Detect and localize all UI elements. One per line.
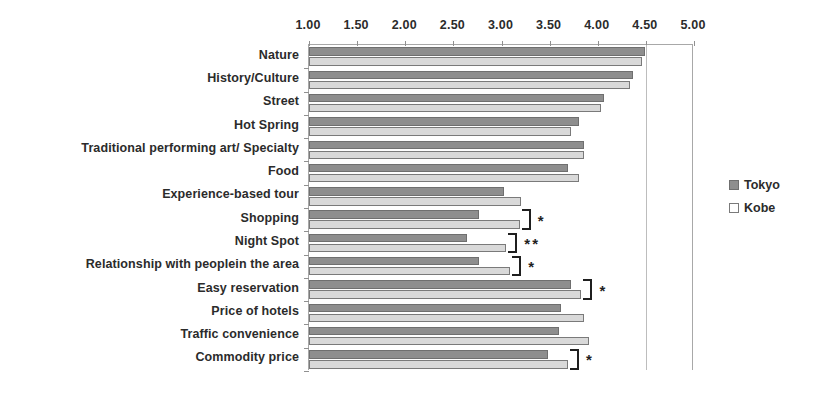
legend-item: Tokyo xyxy=(729,178,780,192)
x-axis-tick xyxy=(502,41,503,46)
legend-label: Kobe xyxy=(744,201,775,215)
y-axis-tick xyxy=(304,255,309,256)
bar-tokyo xyxy=(309,304,561,313)
x-axis-tick-label: 3.00 xyxy=(488,18,513,32)
y-axis-tick xyxy=(304,185,309,186)
bar-kobe xyxy=(309,244,506,253)
category-label: Traditional performing art/ Specialty xyxy=(0,141,299,155)
category-label: Price of hotels xyxy=(0,304,299,318)
y-axis-tick xyxy=(304,115,309,116)
y-axis-tick xyxy=(304,301,309,302)
legend-item: Kobe xyxy=(729,201,780,215)
significance-marker: * xyxy=(528,259,536,274)
x-axis-tick xyxy=(694,41,695,46)
x-axis-tick xyxy=(357,41,358,46)
plot-area: ****** xyxy=(308,44,693,370)
bar-kobe xyxy=(309,360,568,369)
y-axis-tick xyxy=(304,348,309,349)
x-axis-tick-label: 4.00 xyxy=(584,18,609,32)
x-axis-tick xyxy=(550,41,551,46)
bar-chart: 1.001.502.002.503.003.504.004.505.00 Nat… xyxy=(0,0,822,395)
y-axis-tick xyxy=(304,278,309,279)
y-axis-tick xyxy=(304,138,309,139)
significance-bracket xyxy=(522,209,531,230)
bar-tokyo xyxy=(309,280,571,289)
bar-kobe xyxy=(309,174,579,183)
x-axis-tick-label: 2.00 xyxy=(392,18,417,32)
x-axis-tick-label: 1.50 xyxy=(344,18,369,32)
bar-rows: ****** xyxy=(309,45,692,370)
category-label: Night Spot xyxy=(0,234,299,248)
category-axis-labels: NatureHistory/CultureStreetHot SpringTra… xyxy=(0,44,303,370)
category-label: Traffic convenience xyxy=(0,327,299,341)
y-axis-tick xyxy=(304,92,309,93)
bar-kobe xyxy=(309,220,520,229)
legend-swatch-icon xyxy=(729,180,739,190)
bar-kobe xyxy=(309,81,630,90)
bar-kobe xyxy=(309,337,589,346)
x-axis-tick-label: 5.00 xyxy=(680,18,705,32)
category-label: Experience-based tour xyxy=(0,187,299,201)
legend-label: Tokyo xyxy=(744,178,780,192)
bar-kobe xyxy=(309,267,510,276)
bar-kobe xyxy=(309,127,571,136)
bar-tokyo xyxy=(309,164,568,173)
category-label: Food xyxy=(0,164,299,178)
x-axis-tick xyxy=(598,41,599,46)
y-axis-tick xyxy=(304,324,309,325)
category-label: Shopping xyxy=(0,211,299,225)
significance-marker: ** xyxy=(524,236,540,251)
bar-kobe xyxy=(309,57,642,66)
bar-tokyo xyxy=(309,94,604,103)
category-label: Street xyxy=(0,94,299,108)
bar-kobe xyxy=(309,314,584,323)
x-axis-tick-label: 1.00 xyxy=(295,18,320,32)
significance-marker: * xyxy=(586,352,594,367)
bar-tokyo xyxy=(309,71,633,80)
y-axis-tick xyxy=(304,161,309,162)
bar-tokyo xyxy=(309,117,579,126)
legend-swatch-icon xyxy=(729,203,739,213)
x-axis-tick-labels: 1.001.502.002.503.003.504.004.505.00 xyxy=(0,18,822,34)
y-axis-tick xyxy=(304,371,309,372)
significance-bracket xyxy=(583,279,592,300)
category-label: Nature xyxy=(0,48,299,62)
category-label: Hot Spring xyxy=(0,118,299,132)
category-label: Relationship with peoplein the area xyxy=(0,257,299,271)
x-axis-tick xyxy=(405,41,406,46)
bar-kobe xyxy=(309,290,581,299)
bar-tokyo xyxy=(309,187,504,196)
x-axis-tick-label: 4.50 xyxy=(632,18,657,32)
bar-tokyo xyxy=(309,350,548,359)
category-label: Commodity price xyxy=(0,350,299,364)
bar-tokyo xyxy=(309,47,645,56)
significance-bracket xyxy=(570,349,579,370)
bar-kobe xyxy=(309,104,601,113)
x-axis-tick-label: 2.50 xyxy=(440,18,465,32)
bar-tokyo xyxy=(309,234,467,243)
significance-bracket xyxy=(508,233,517,254)
significance-bracket xyxy=(512,256,521,277)
significance-marker: * xyxy=(599,283,607,298)
significance-marker: * xyxy=(538,213,546,228)
bar-kobe xyxy=(309,151,584,160)
chart-legend: TokyoKobe xyxy=(729,178,780,224)
x-axis-tick xyxy=(453,41,454,46)
y-axis-tick xyxy=(304,68,309,69)
bar-tokyo xyxy=(309,210,479,219)
x-axis-tick xyxy=(309,41,310,46)
bar-tokyo xyxy=(309,257,479,266)
category-label: Easy reservation xyxy=(0,281,299,295)
y-axis-tick xyxy=(304,231,309,232)
gridline xyxy=(646,45,647,370)
y-axis-tick xyxy=(304,208,309,209)
category-label: History/Culture xyxy=(0,71,299,85)
x-axis-tick-label: 3.50 xyxy=(536,18,561,32)
bar-tokyo xyxy=(309,327,559,336)
bar-tokyo xyxy=(309,141,584,150)
bar-kobe xyxy=(309,197,521,206)
